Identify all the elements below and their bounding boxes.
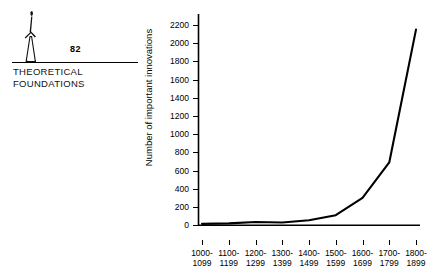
y-axis-tick-label: 200 <box>155 203 189 211</box>
x-axis-tick-label: 1800-1899 <box>394 248 436 267</box>
y-axis-tick-label: 1800 <box>155 57 189 65</box>
x-axis-tick-mark <box>229 240 230 245</box>
y-axis-tick-label: 2000 <box>155 39 189 47</box>
y-axis-tick-label: 1400 <box>155 94 189 102</box>
y-axis-tick-label: 600 <box>155 167 189 175</box>
y-axis-ticks: 0200400600800100012001400160018002000220… <box>120 0 198 267</box>
y-axis-tick-label: 400 <box>155 185 189 193</box>
y-axis-tick-label: 1200 <box>155 112 189 120</box>
x-axis-tick-mark <box>416 240 417 245</box>
x-axis-tick-mark <box>256 240 257 245</box>
chapter-number: 82 <box>70 44 81 54</box>
y-axis-tick-label: 800 <box>155 148 189 156</box>
x-axis-tick-mark <box>336 240 337 245</box>
x-axis-tick-mark <box>202 240 203 245</box>
obelisk-figure-icon <box>14 10 56 65</box>
x-axis-tick-label-line-1: 1800- <box>394 248 436 258</box>
y-axis-tick-label: 2200 <box>155 21 189 29</box>
x-axis-tick-mark <box>363 240 364 245</box>
x-axis-tick-label-line-2: 1899 <box>394 258 436 267</box>
x-axis-tick-mark <box>309 240 310 245</box>
y-axis-tick-label: 1000 <box>155 130 189 138</box>
chapter-marker: 82 THEORETICAL FOUNDATIONS <box>0 0 140 110</box>
y-axis-tick-label: 0 <box>155 221 189 229</box>
x-axis-tick-mark <box>282 240 283 245</box>
x-axis-labels: 1000-10991100-11991200-12991300-13991400… <box>198 14 420 267</box>
y-axis-tick-label: 1600 <box>155 76 189 84</box>
x-axis-tick-mark <box>389 240 390 245</box>
innovations-line-chart: Number of important innovations 02004006… <box>120 0 436 267</box>
